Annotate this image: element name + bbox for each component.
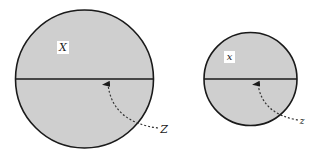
small-circle-group: x z: [204, 33, 305, 127]
large-circle-upper-label: X: [58, 41, 68, 54]
diagram-canvas: X Z x z: [0, 0, 321, 157]
small-circle-pointer-label: z: [299, 116, 305, 126]
large-circle-pointer-label: Z: [159, 123, 168, 136]
large-circle-group: X Z: [16, 10, 169, 148]
small-circle-upper-label: x: [227, 51, 233, 62]
